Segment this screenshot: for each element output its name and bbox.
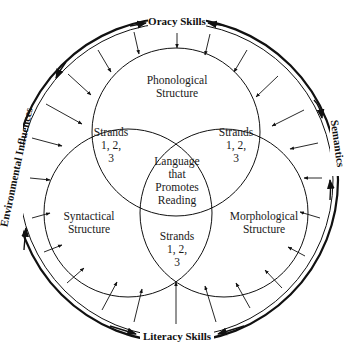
strands-top-right: Strands 1, 2, 3 (219, 126, 254, 164)
svg-text:3: 3 (233, 152, 239, 164)
svg-text:3: 3 (108, 152, 114, 164)
svg-text:Structure: Structure (243, 223, 285, 235)
svg-text:Morphological: Morphological (230, 210, 298, 223)
svg-text:3: 3 (174, 256, 180, 268)
venn-diagram: Oracy Skills Literacy Skills Environment… (0, 0, 352, 356)
svg-text:Reading: Reading (158, 194, 197, 207)
svg-text:Structure: Structure (68, 223, 110, 235)
strands-bottom: Strands 1, 2, 3 (160, 230, 195, 268)
svg-text:1, 2,: 1, 2, (167, 243, 187, 256)
svg-text:Strands: Strands (94, 126, 129, 138)
svg-text:Strands: Strands (219, 126, 254, 138)
strands-top-left: Strands 1, 2, 3 (94, 126, 129, 164)
svg-text:Syntactical: Syntactical (63, 210, 114, 223)
phonological-label: Phonological Structure (147, 74, 208, 99)
svg-text:Promotes: Promotes (155, 181, 199, 193)
svg-text:1, 2,: 1, 2, (226, 139, 246, 152)
svg-text:that: that (168, 168, 186, 180)
svg-text:Strands: Strands (160, 230, 195, 242)
svg-text:1, 2,: 1, 2, (101, 139, 121, 152)
svg-text:Language: Language (154, 155, 199, 168)
syntactical-label: Syntactical Structure (63, 210, 114, 235)
center-label: Language that Promotes Reading (154, 155, 199, 207)
svg-text:Phonological: Phonological (147, 74, 208, 87)
svg-text:Structure: Structure (156, 87, 198, 99)
literacy-skills-label: Literacy Skills (143, 330, 212, 342)
morphological-label: Morphological Structure (230, 210, 298, 235)
oracy-skills-label: Oracy Skills (148, 15, 206, 27)
